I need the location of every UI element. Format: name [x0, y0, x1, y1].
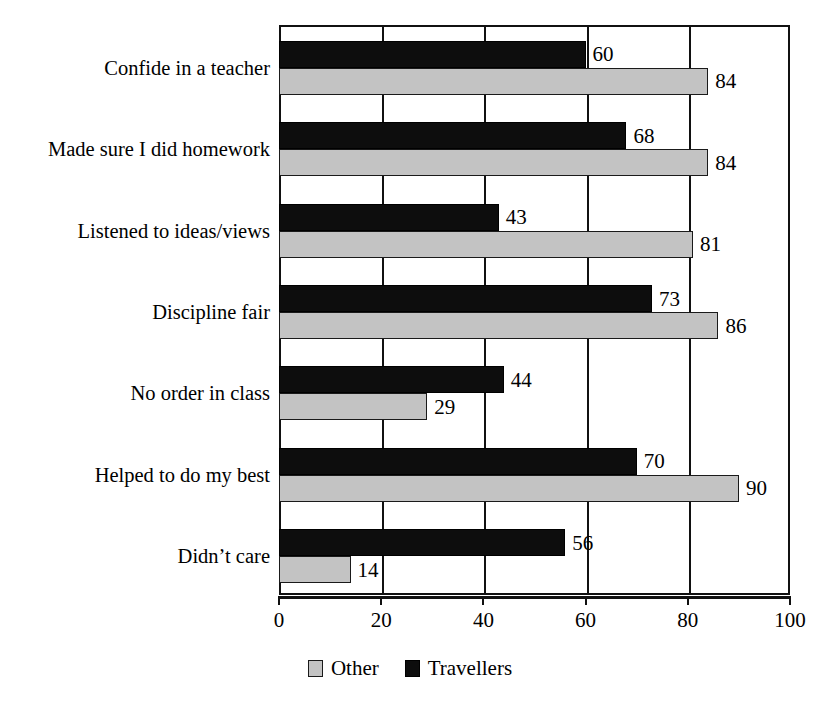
- x-tick: [789, 596, 791, 605]
- category-axis-labels: Confide in a teacherMade sure I did home…: [0, 25, 270, 595]
- x-tick: [380, 596, 382, 605]
- gridline-20: [382, 27, 384, 593]
- x-tick-label: 100: [774, 610, 806, 631]
- x-tick: [278, 596, 280, 605]
- x-tick-label: 60: [575, 610, 596, 631]
- gridline-80: [689, 27, 691, 593]
- x-tick-label: 80: [677, 610, 698, 631]
- x-tick: [585, 596, 587, 605]
- category-label: Confide in a teacher: [0, 58, 270, 79]
- category-label: Didn’t care: [0, 546, 270, 567]
- category-label: Made sure I did homework: [0, 139, 270, 160]
- category-label: Discipline fair: [0, 302, 270, 323]
- x-tick: [482, 596, 484, 605]
- gridline-60: [587, 27, 589, 593]
- category-label: Helped to do my best: [0, 465, 270, 486]
- legend-swatch-travellers-icon: [405, 660, 420, 677]
- x-tick-label: 20: [371, 610, 392, 631]
- category-label: Listened to ideas/views: [0, 221, 270, 242]
- x-tick-label: 40: [473, 610, 494, 631]
- legend-item[interactable]: Travellers: [405, 658, 512, 679]
- legend-item[interactable]: Other: [308, 658, 379, 679]
- category-label: No order in class: [0, 383, 270, 404]
- legend-swatch-other-icon: [308, 660, 323, 677]
- chart-legend: OtherTravellers: [0, 658, 820, 679]
- x-tick: [687, 596, 689, 605]
- x-tick-label: 0: [274, 610, 285, 631]
- gridline-40: [484, 27, 486, 593]
- plot-area: [279, 25, 790, 595]
- bar-chart: Confide in a teacherMade sure I did home…: [0, 0, 820, 705]
- legend-label: Travellers: [428, 658, 512, 679]
- x-axis-line: [279, 596, 790, 599]
- legend-label: Other: [331, 658, 379, 679]
